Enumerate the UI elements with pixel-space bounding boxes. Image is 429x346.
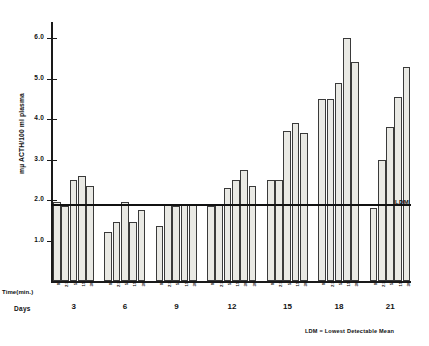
bar	[240, 170, 248, 281]
chart-footnote: LDM = Lowest Detectable Mean	[305, 328, 394, 334]
x-tick-label: 30	[133, 284, 151, 292]
bar	[61, 206, 69, 281]
bar	[327, 99, 335, 281]
ldm-label: LDM	[395, 199, 409, 205]
day-group-label: 15	[268, 302, 308, 311]
bar	[378, 160, 386, 281]
bar	[156, 226, 164, 281]
bar	[232, 180, 240, 281]
y-tick-label: 6.0	[22, 34, 44, 41]
x-axis-caption: Time(min.)	[2, 289, 33, 295]
bar	[351, 62, 359, 281]
bar	[275, 180, 283, 281]
day-group-label: 6	[105, 302, 145, 311]
day-group-label: 9	[156, 302, 196, 311]
bar	[292, 123, 300, 281]
bar	[283, 131, 291, 281]
day-group-label: 3	[54, 302, 94, 311]
bar	[207, 206, 215, 281]
bar	[403, 67, 411, 281]
bar	[113, 222, 121, 281]
x-tick-label: 30	[184, 284, 202, 292]
bar	[189, 204, 197, 281]
bar	[370, 208, 378, 281]
x-tick-label: 30	[398, 284, 416, 292]
y-axis-title: mµ ACTH/100 ml plasma	[18, 69, 25, 199]
bar	[78, 176, 86, 281]
plot-area	[53, 22, 411, 281]
day-group-label: 12	[212, 302, 252, 311]
bar	[138, 210, 146, 281]
bar	[343, 38, 351, 281]
x-tick-label: 30	[346, 284, 364, 292]
bar	[86, 186, 94, 281]
bar	[300, 133, 308, 281]
bar	[129, 222, 137, 281]
y-tick-label: 2.0	[22, 196, 44, 203]
bar	[318, 99, 326, 281]
day-group-label: 18	[319, 302, 359, 311]
bar	[70, 180, 78, 281]
bar	[335, 83, 343, 281]
y-tick-label: 5.0	[22, 75, 44, 82]
bar	[104, 232, 112, 281]
bar	[164, 204, 172, 281]
bar	[224, 188, 232, 281]
bar	[267, 180, 275, 281]
bar	[121, 202, 129, 281]
x-tick-label: 30	[81, 284, 99, 292]
day-group-label: 21	[370, 302, 410, 311]
y-tick-label: 1.0	[22, 237, 44, 244]
bar	[181, 204, 189, 281]
y-tick-label: 3.0	[22, 156, 44, 163]
y-tick-label: 4.0	[22, 115, 44, 122]
bar	[394, 97, 402, 281]
bar	[215, 204, 223, 281]
x-tick-label: 30	[244, 284, 262, 292]
bar	[249, 186, 257, 281]
bar	[172, 206, 180, 281]
x-tick-label: 30	[295, 284, 313, 292]
ldm-reference-line	[51, 204, 411, 205]
days-caption: Days	[14, 305, 31, 312]
bar	[53, 202, 61, 281]
bar-chart-figure: mµ ACTH/100 ml plasma 1.02.03.04.05.06.0…	[0, 0, 429, 346]
